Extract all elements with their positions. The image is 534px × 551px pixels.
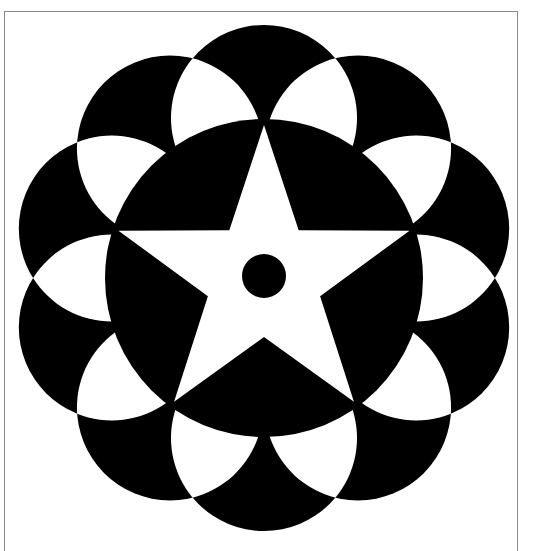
center-dot [242, 254, 286, 298]
